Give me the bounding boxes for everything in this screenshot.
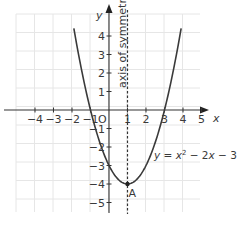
y-tick-label: 1 <box>98 86 105 99</box>
y-tick-label: −4 <box>89 178 105 191</box>
y-tick-label: 4 <box>98 30 105 43</box>
vertex-point <box>125 182 129 186</box>
y-axis-label: y <box>95 9 103 22</box>
x-axis-label: x <box>212 112 220 125</box>
vertex-label: A <box>129 187 137 200</box>
x-tick-label: 5 <box>198 113 205 126</box>
parabola-graph: −4−3−2−1123454321−1−2−3−4−5 x y O axis o… <box>0 0 244 236</box>
y-tick-label: −3 <box>89 160 105 173</box>
x-tick-label: 2 <box>143 113 150 126</box>
origin-label: O <box>98 113 107 126</box>
x-tick-label: −3 <box>45 113 61 126</box>
equation-label: y = x2 − 2x − 3 <box>153 149 237 161</box>
y-tick-label: 3 <box>98 49 105 62</box>
axis-of-symmetry-label: axis of symmetry <box>116 0 129 88</box>
grid <box>16 14 200 212</box>
x-tick-label: 4 <box>180 113 187 126</box>
x-tick-label: −4 <box>27 113 43 126</box>
x-tick-label: −2 <box>64 113 80 126</box>
y-axis-arrow-icon <box>106 4 113 13</box>
y-tick-label: −5 <box>89 197 105 210</box>
y-tick-label: 2 <box>98 67 105 80</box>
